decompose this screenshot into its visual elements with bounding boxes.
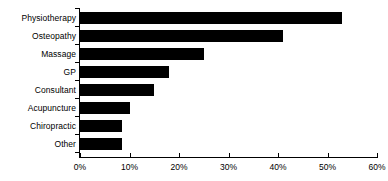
bar [80,12,342,24]
bar [80,30,283,42]
bar [80,120,122,132]
category-label: Chiropractic [30,117,76,135]
x-tick-label: 40% [258,162,298,172]
y-tick [75,44,80,45]
x-tick-label: 50% [308,162,348,172]
category-label: Other [54,135,76,153]
bar-row: Massage [0,45,388,63]
bar-row: Chiropractic [0,117,388,135]
bar-row: Acupuncture [0,99,388,117]
category-label: Osteopathy [32,27,76,45]
bar-row: Consultant [0,81,388,99]
x-tick [278,153,279,158]
x-tick-label: 60% [357,162,388,172]
x-tick-label: 20% [159,162,199,172]
bar-chart: PhysiotherapyOsteopathyMassageGPConsulta… [0,0,388,181]
x-tick [130,153,131,158]
x-tick [328,153,329,158]
category-label: GP [64,63,76,81]
bar [80,66,169,78]
category-label: Physiotherapy [21,9,76,27]
y-tick [75,98,80,99]
bar [80,48,204,60]
plot-area: PhysiotherapyOsteopathyMassageGPConsulta… [0,0,388,181]
x-tick-label: 30% [209,162,249,172]
y-tick [75,116,80,117]
y-tick [75,134,80,135]
bar [80,138,122,150]
bar-row: Physiotherapy [0,9,388,27]
category-label: Massage [41,45,76,63]
x-tick [80,153,81,158]
y-tick [75,62,80,63]
y-tick [75,8,80,9]
y-axis-line [79,8,80,158]
x-tick-label: 0% [60,162,100,172]
x-tick-label: 10% [110,162,150,172]
category-label: Consultant [35,81,76,99]
x-tick [229,153,230,158]
bar [80,102,130,114]
bar-row: Osteopathy [0,27,388,45]
x-tick [179,153,180,158]
bar [80,84,154,96]
y-tick [75,80,80,81]
bar-row: GP [0,63,388,81]
category-label: Acupuncture [28,99,76,117]
x-tick [377,153,378,158]
bar-row: Other [0,135,388,153]
y-tick [75,26,80,27]
